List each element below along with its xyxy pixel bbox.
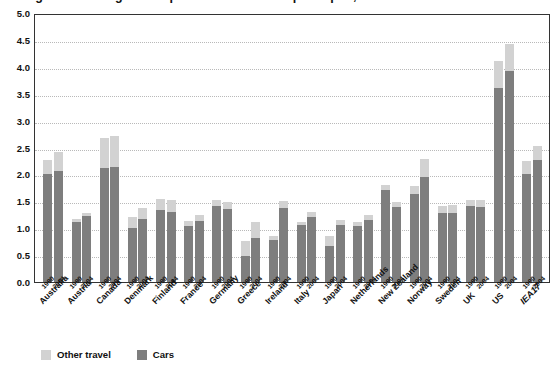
stacked-bar[interactable] xyxy=(392,202,401,282)
legend-item-other-travel: Other travel xyxy=(41,349,111,360)
stacked-bar[interactable] xyxy=(251,222,260,282)
bar-segment-other-travel xyxy=(251,222,260,238)
stacked-bar[interactable] xyxy=(307,212,316,282)
bar-segment-cars xyxy=(110,167,119,282)
bar-segment-cars xyxy=(184,226,193,282)
x-axis-group: 19902004US xyxy=(491,283,519,345)
bar-segment-cars xyxy=(138,219,147,282)
bar-segment-other-travel xyxy=(156,199,165,210)
stacked-bar[interactable] xyxy=(279,201,288,282)
bar-group xyxy=(349,15,377,282)
legend-swatch-other-travel-icon xyxy=(41,350,51,360)
stacked-bar[interactable] xyxy=(533,146,542,282)
x-axis-category-label: US xyxy=(490,291,506,307)
x-axis-group: 19902004France xyxy=(179,283,207,345)
x-axis-group: 19902004Australia xyxy=(38,283,66,345)
stacked-bar[interactable] xyxy=(54,152,63,282)
stacked-bar[interactable] xyxy=(110,136,119,282)
bar-segment-cars xyxy=(307,217,316,282)
y-tick-label: 3.0 xyxy=(17,117,30,127)
bar-segment-cars xyxy=(156,210,165,282)
bar-segment-cars xyxy=(476,207,485,282)
stacked-bar[interactable] xyxy=(353,222,362,282)
stacked-bar[interactable] xyxy=(297,222,306,282)
bar-segment-cars xyxy=(364,220,373,282)
x-axis-category-label: UK xyxy=(461,290,477,306)
stacked-bar[interactable] xyxy=(420,159,429,282)
bar-segment-other-travel xyxy=(448,205,457,214)
y-tick-label: 1.0 xyxy=(17,224,30,234)
bar-segment-cars xyxy=(43,174,52,282)
chart-title: Figure: Passenger transport CO2 emission… xyxy=(24,0,446,3)
stacked-bar[interactable] xyxy=(438,206,447,282)
y-tick-label: 3.5 xyxy=(17,90,30,100)
x-axis-group: 19902004Italy xyxy=(293,283,321,345)
x-axis-group: 19902004Finland xyxy=(151,283,179,345)
stacked-bar[interactable] xyxy=(128,217,137,282)
stacked-bar[interactable] xyxy=(82,213,91,282)
x-axis-group: 19902004Denmark xyxy=(123,283,151,345)
bar-segment-cars xyxy=(505,71,514,282)
y-axis-tick-labels: 0.00.51.01.52.02.53.03.54.04.55.0 xyxy=(0,14,34,283)
bar-segment-other-travel xyxy=(128,217,137,228)
stacked-bar[interactable] xyxy=(43,160,52,282)
bar-group xyxy=(518,15,546,282)
x-axis-group: 19902004IEA17 xyxy=(519,283,547,345)
stacked-bar[interactable] xyxy=(336,220,345,282)
x-axis-group: 19902004Norway xyxy=(406,283,434,345)
bar-segment-cars xyxy=(279,208,288,282)
bar-segment-other-travel xyxy=(43,160,52,174)
stacked-bar[interactable] xyxy=(466,200,475,282)
bar-segment-cars xyxy=(420,177,429,282)
bar-segment-cars xyxy=(392,207,401,282)
y-tick-label: 4.0 xyxy=(17,63,30,73)
y-tick-label: 2.0 xyxy=(17,171,30,181)
stacked-bar[interactable] xyxy=(223,202,232,282)
stacked-bar[interactable] xyxy=(184,221,193,282)
legend-label-other-travel: Other travel xyxy=(57,349,111,360)
bar-group xyxy=(152,15,180,282)
stacked-bar[interactable] xyxy=(167,200,176,282)
stacked-bar[interactable] xyxy=(72,219,81,282)
legend-swatch-cars-icon xyxy=(137,350,147,360)
bar-segment-cars xyxy=(533,160,542,282)
bar-segment-cars xyxy=(195,221,204,282)
bar-group xyxy=(321,15,349,282)
stacked-bar[interactable] xyxy=(195,215,204,282)
stacked-bar[interactable] xyxy=(100,138,109,282)
bar-segment-other-travel xyxy=(167,200,176,211)
bar-segment-other-travel xyxy=(522,161,531,174)
bar-group xyxy=(95,15,123,282)
bar-segment-other-travel xyxy=(420,159,429,177)
bar-segment-other-travel xyxy=(325,236,334,246)
legend-label-cars: Cars xyxy=(153,349,174,360)
y-tick-label: 5.0 xyxy=(17,9,30,19)
chart-legend: Other travel Cars xyxy=(41,349,174,360)
bar-series xyxy=(35,15,549,282)
bar-group xyxy=(180,15,208,282)
x-axis-group: 19902004Canada xyxy=(95,283,123,345)
x-axis-group: 19902004UK xyxy=(462,283,490,345)
stacked-bar[interactable] xyxy=(138,208,147,282)
stacked-bar[interactable] xyxy=(364,215,373,282)
x-axis-group: 19902004Sweden xyxy=(434,283,462,345)
stacked-bar[interactable] xyxy=(448,205,457,282)
stacked-bar[interactable] xyxy=(476,200,485,282)
x-axis-group: 19902004Germany xyxy=(208,283,236,345)
bar-segment-other-travel xyxy=(505,44,514,71)
bar-segment-cars xyxy=(522,174,531,282)
bar-segment-cars xyxy=(100,168,109,282)
stacked-bar[interactable] xyxy=(494,61,503,282)
stacked-bar[interactable] xyxy=(212,200,221,282)
bar-segment-cars xyxy=(54,171,63,282)
bar-segment-other-travel xyxy=(138,208,147,219)
bar-group xyxy=(264,15,292,282)
stacked-bar[interactable] xyxy=(156,199,165,282)
bar-segment-cars xyxy=(72,222,81,282)
bar-group xyxy=(462,15,490,282)
bar-segment-other-travel xyxy=(100,138,109,168)
stacked-bar[interactable] xyxy=(522,161,531,282)
stacked-bar[interactable] xyxy=(505,44,514,282)
bar-segment-cars xyxy=(297,225,306,282)
bar-segment-other-travel xyxy=(410,186,419,194)
